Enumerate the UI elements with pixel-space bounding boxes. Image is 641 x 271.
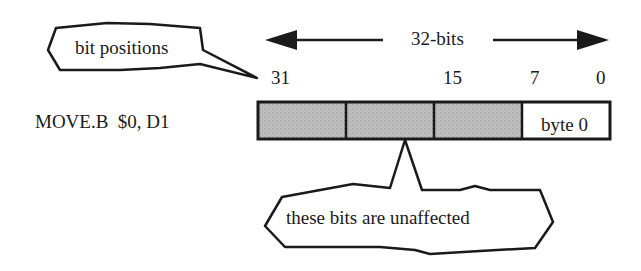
width-label: 32-bits <box>411 29 464 48</box>
bit-position-7: 7 <box>530 68 540 87</box>
bit-position-15: 15 <box>443 68 462 87</box>
bit-position-0: 0 <box>596 68 606 87</box>
instruction-label: MOVE.B $0, D1 <box>35 112 170 131</box>
callout-bit-positions-text: bit positions <box>75 38 168 57</box>
callout-unaffected-text: these bits are unaffected <box>286 208 470 227</box>
bit-position-31: 31 <box>271 68 290 87</box>
register-cell-byte0: byte 0 <box>541 115 588 134</box>
callout-unaffected-shape <box>265 140 553 254</box>
